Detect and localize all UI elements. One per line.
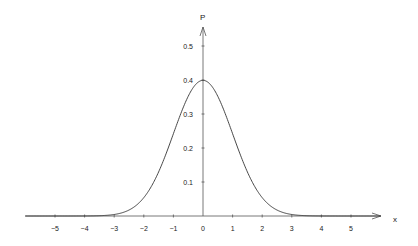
- y-axis-label: P: [200, 13, 205, 22]
- x-axis: x: [25, 213, 397, 224]
- x-tick-label: 3: [290, 225, 294, 232]
- y-axis: P: [200, 13, 206, 216]
- x-tick-label: −3: [110, 225, 118, 232]
- x-tick-label: 5: [349, 225, 353, 232]
- y-tick-label: 0.4: [183, 77, 193, 84]
- x-axis-label: x: [393, 215, 397, 224]
- x-tick-label: −4: [81, 225, 89, 232]
- y-tick-label: 0.1: [183, 179, 193, 186]
- normal-distribution-chart: x P −5−4−3−2−1012345 0.10.20.30.40.5: [0, 0, 418, 246]
- x-tick-label: −2: [140, 225, 148, 232]
- x-ticks: −5−4−3−2−1012345: [51, 215, 353, 233]
- y-tick-label: 0.3: [183, 111, 193, 118]
- y-ticks: 0.10.20.30.40.5: [183, 43, 204, 186]
- x-tick-label: −5: [51, 225, 59, 232]
- x-tick-label: 1: [231, 225, 235, 232]
- x-tick-label: −1: [169, 225, 177, 232]
- y-tick-label: 0.2: [183, 145, 193, 152]
- y-tick-label: 0.5: [183, 43, 193, 50]
- x-tick-label: 2: [260, 225, 264, 232]
- x-tick-label: 0: [201, 225, 205, 232]
- x-tick-label: 4: [319, 225, 323, 232]
